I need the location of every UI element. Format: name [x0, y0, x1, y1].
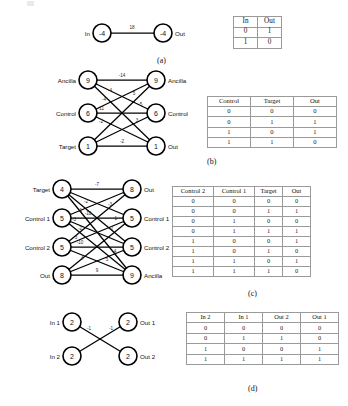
cell: 0 — [214, 247, 255, 257]
col-header-control2: Control 2 — [173, 187, 214, 197]
cell: 0 — [225, 323, 263, 333]
table-header-row: In Out — [234, 17, 282, 28]
edge-label-lc2-rc2: -10 — [77, 240, 84, 245]
scan-artifact — [27, 1, 34, 6]
node-in1-label: In 1 — [50, 319, 61, 326]
cell: 1 — [187, 344, 225, 354]
cell: 1 — [283, 237, 311, 247]
node-out-right-label: Out — [144, 186, 154, 193]
node-control2-right-label: Control 2 — [144, 244, 170, 251]
table-header-row: Control Target Out — [208, 97, 337, 107]
table-row: 1 1 0 1 — [173, 257, 311, 267]
figure-page: 18 -4 In -4 Out In Out 0 1 1 0 (a) — [0, 0, 348, 406]
node-out1-value: 2 — [126, 319, 130, 326]
node-control2-right-value: 5 — [130, 244, 134, 251]
table-row: 1 0 1 — [208, 127, 337, 137]
cell: 0 — [263, 323, 301, 333]
node-target-left-value: 1 — [86, 143, 90, 150]
col-header-target: Target — [251, 97, 294, 107]
cell: 1 — [251, 137, 294, 147]
table-row: 1 1 1 1 — [187, 354, 339, 364]
node-in2-label: In 2 — [50, 353, 61, 360]
node-out-label: Out — [175, 30, 185, 37]
cell: 1 — [208, 127, 251, 137]
edge-label-lo-rc2: 4 — [114, 249, 117, 254]
node-out-value: -4 — [160, 30, 166, 37]
panel-a-table-wrap: In Out 0 1 1 0 — [233, 16, 282, 49]
cell: 1 — [255, 267, 283, 277]
cell: 0 — [173, 197, 214, 207]
panel-d-table-wrap: In 2 In 1 Out 2 Out 1 0 0 0 0 0 1 1 0 1 … — [186, 312, 339, 365]
table-row: 1 0 0 1 — [187, 344, 339, 354]
cell: 1 — [173, 247, 214, 257]
graph-d-svg: -1 -1 2 In 1 2 In 2 2 Out 1 2 Out 2 — [30, 308, 170, 370]
col-header-in2: In 2 — [187, 313, 225, 323]
cell: 0 — [251, 107, 294, 117]
panel-c-graph: -7 -2 -1 -3 -10 -2 3 -3 -10 -2 4 -1 9 5 … — [14, 180, 179, 284]
cell: 1 — [263, 354, 301, 364]
cell: 1 — [263, 333, 301, 343]
table-row: 0 1 1 — [208, 117, 337, 127]
cell: 0 — [283, 247, 311, 257]
col-header-in: In — [234, 17, 258, 28]
edge-label-lt-ro: -7 — [95, 182, 100, 187]
cell: 0 — [301, 323, 339, 333]
cell: 1 — [294, 117, 337, 127]
cell: 0 — [294, 137, 337, 147]
table-row: 0 0 0 — [208, 107, 337, 117]
cell: 1 — [283, 227, 311, 237]
col-header-out1: Out 1 — [301, 313, 339, 323]
node-control1-left-label: Control 1 — [25, 215, 51, 222]
cell: 0 — [208, 117, 251, 127]
panel-c-table-wrap: Control 2 Control 1 Target Out 0 0 0 0 0… — [172, 186, 311, 277]
table-header-row: Control 2 Control 1 Target Out — [173, 187, 311, 197]
panel-a-graph: 18 -4 In -4 Out — [70, 14, 195, 50]
cell: 0 — [214, 207, 255, 217]
node-control1-left-value: 5 — [60, 215, 64, 222]
cell: 0 — [255, 257, 283, 267]
cell: 1 — [234, 38, 258, 49]
node-control1-right-label: Control 1 — [144, 215, 170, 222]
table-row: 0 0 1 1 — [173, 207, 311, 217]
node-ancilla-right-label: Ancilla — [144, 272, 163, 279]
cell: 0 — [173, 227, 214, 237]
panel-d-graph: -1 -1 2 In 1 2 In 2 2 Out 1 2 Out 2 — [30, 308, 170, 370]
node-out-left-value: 8 — [60, 272, 64, 279]
cell: 1 — [301, 354, 339, 364]
node-target-left-label: Target — [33, 186, 50, 193]
cell: 1 — [173, 267, 214, 277]
cell: 0 — [258, 38, 282, 49]
cell: 0 — [214, 197, 255, 207]
cell: 1 — [214, 217, 255, 227]
cell: 0 — [173, 207, 214, 217]
col-header-out: Out — [258, 17, 282, 28]
edge-label-la-rc: -4 — [108, 88, 113, 93]
cell: 0 — [255, 237, 283, 247]
node-control-right-label: Control — [168, 110, 188, 117]
cell: 0 — [283, 217, 311, 227]
edge-label-i2-o1: -1 — [109, 326, 114, 331]
col-header-control: Control — [208, 97, 251, 107]
node-in2-value: 2 — [70, 353, 74, 360]
node-control1-right-value: 5 — [130, 215, 134, 222]
node-out2-label: Out 2 — [140, 353, 156, 360]
edge-label-lo-ra: 9 — [96, 268, 99, 273]
node-control-left-value: 6 — [86, 110, 90, 117]
cell: 1 — [283, 207, 311, 217]
cell: 1 — [225, 333, 263, 343]
cell: 1 — [251, 117, 294, 127]
col-header-control1: Control 1 — [214, 187, 255, 197]
cell: 1 — [173, 237, 214, 247]
cell: 0 — [263, 344, 301, 354]
edge-label-lt-ro: -2 — [120, 139, 125, 144]
cell: 0 — [173, 217, 214, 227]
edge-label-lc1-rc2: -2 — [78, 226, 83, 231]
table-row: 0 1 1 1 — [173, 227, 311, 237]
table-header-row: In 2 In 1 Out 2 Out 1 — [187, 313, 339, 323]
node-ancilla-right-value: 9 — [130, 272, 134, 279]
truth-table-b: Control Target Out 0 0 0 0 1 1 1 0 1 1 1 — [207, 96, 337, 148]
table-row: 1 0 — [234, 38, 282, 49]
table-row: 1 1 0 — [208, 137, 337, 147]
edge-label-la-ra: -14 — [119, 73, 126, 78]
cell: 0 — [187, 323, 225, 333]
